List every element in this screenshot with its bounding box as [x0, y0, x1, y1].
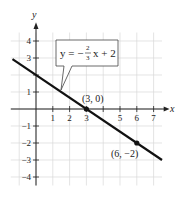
x-axis-arrow-icon: [164, 107, 170, 112]
x-tick-label: 3: [84, 113, 89, 123]
x-tick-label: 7: [151, 113, 156, 123]
point-label-6-neg2: (6, −2): [111, 148, 138, 160]
y-axis-arrow-icon: [34, 22, 39, 29]
y-tick-label: −4: [21, 172, 31, 182]
data-point: [84, 106, 89, 111]
linear-equation-graph: 123567−4−3−2−1134 x y y = − 2 3 x + 2 (3…: [0, 0, 187, 199]
point-label-3-0: (3, 0): [82, 93, 104, 105]
x-tick-label: 1: [51, 113, 56, 123]
equation-suffix: x + 2: [93, 47, 116, 59]
y-axis-label: y: [31, 9, 37, 20]
equation-callout: y = − 2 3 x + 2: [56, 40, 118, 90]
equation-prefix: y = −: [60, 47, 83, 59]
x-axis-label: x: [169, 103, 175, 114]
x-tick-label: 5: [118, 113, 123, 123]
equation-denominator: 3: [86, 54, 90, 62]
y-tick-label: −1: [21, 121, 31, 131]
x-tick-label: 6: [135, 113, 140, 123]
y-tick-label: 1: [27, 87, 32, 97]
y-tick-label: 3: [27, 53, 32, 63]
equation-numerator: 2: [86, 44, 90, 52]
y-tick-label: −2: [21, 138, 31, 148]
y-tick-label: 4: [27, 36, 32, 46]
data-point: [134, 140, 139, 145]
y-tick-label: −3: [21, 155, 31, 165]
x-tick-label: 2: [67, 113, 72, 123]
